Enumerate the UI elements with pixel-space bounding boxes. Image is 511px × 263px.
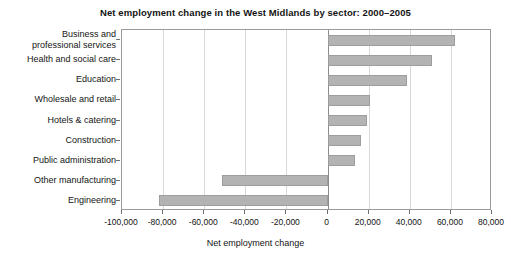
x-axis-tick [491, 210, 492, 214]
y-axis-tick [116, 180, 120, 181]
x-axis-tick [368, 210, 369, 214]
bar [328, 35, 455, 46]
x-axis-tick [121, 210, 122, 214]
y-axis-tick [116, 140, 120, 141]
x-axis-tick [162, 210, 163, 214]
y-axis-tick-label: Hotels & catering [0, 114, 116, 125]
x-axis-tick-label: 20,000 [355, 217, 381, 227]
chart-title: Net employment change in the West Midlan… [0, 7, 511, 18]
bar [328, 95, 370, 106]
x-axis-tick [203, 210, 204, 214]
bar [159, 195, 328, 206]
x-axis-tick-label: -20,000 [271, 217, 300, 227]
x-axis-tick-label: 60,000 [437, 217, 463, 227]
y-axis-tick [116, 59, 120, 60]
x-axis-tick-label: -80,000 [148, 217, 177, 227]
y-axis-tick [116, 120, 120, 121]
y-axis-tick [116, 160, 120, 161]
y-axis-tick-label: Engineering [0, 195, 116, 206]
x-axis-tick-label: -40,000 [230, 217, 259, 227]
x-axis-title: Net employment change [0, 238, 511, 248]
x-axis-tick-label: 80,000 [478, 217, 504, 227]
x-axis-tick-label: 0 [324, 217, 329, 227]
bar [328, 115, 367, 126]
bar [328, 135, 362, 146]
x-axis-tick [244, 210, 245, 214]
bar [328, 155, 356, 166]
bar [328, 55, 433, 66]
y-axis-tick [116, 99, 120, 100]
y-axis-tick-label: Wholesale and retail [0, 94, 116, 105]
y-axis-tick-label: Education [0, 74, 116, 85]
bar-chart: Net employment change in the West Midlan… [0, 0, 511, 263]
y-axis-category-labels: Business andprofessional servicesHealth … [0, 29, 116, 210]
x-axis-tick-label: 40,000 [396, 217, 422, 227]
x-axis-tick [285, 210, 286, 214]
x-axis-tick [409, 210, 410, 214]
plot-area [121, 29, 491, 210]
y-axis-tick-label: Business andprofessional services [0, 29, 116, 50]
y-axis-tick-label: Construction [0, 134, 116, 145]
bar [222, 175, 328, 186]
x-axis-tick [450, 210, 451, 214]
x-axis-tick-label: -100,000 [104, 217, 138, 227]
y-axis-tick [116, 39, 120, 40]
y-axis-tick [116, 200, 120, 201]
y-axis-tick [116, 79, 120, 80]
y-axis-tick-label: Health and social care [0, 54, 116, 65]
y-axis-tick-label: Public administration [0, 154, 116, 165]
bars-layer [122, 30, 490, 209]
bar [328, 75, 407, 86]
y-axis-tick-label: Other manufacturing [0, 175, 116, 186]
x-axis-tick-label: -60,000 [189, 217, 218, 227]
x-axis-tick [327, 210, 328, 214]
